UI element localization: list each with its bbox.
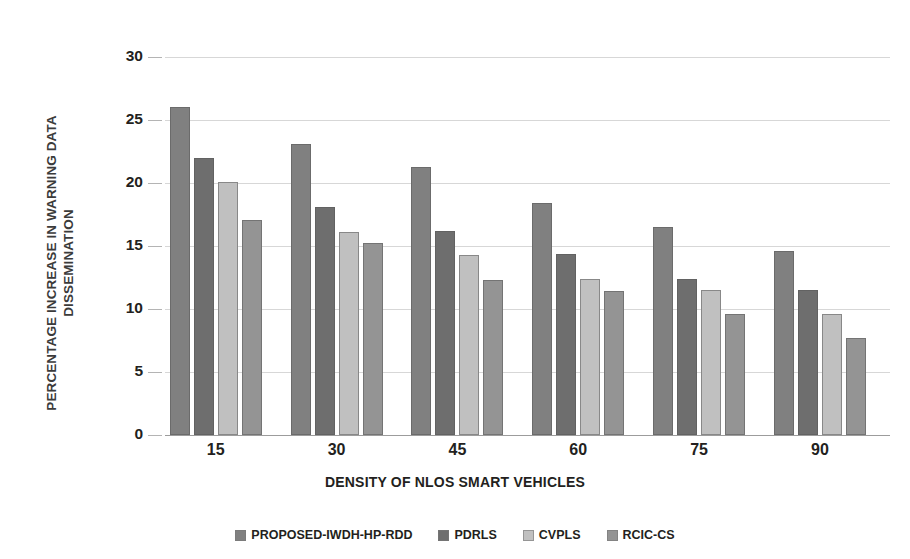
y-tick-label: 5 [134,362,143,380]
legend-swatch-icon [438,530,449,541]
bar-group [653,57,745,435]
legend-item[interactable]: RCIC-CS [607,528,675,542]
bar [556,254,576,435]
bar [483,280,503,435]
bar [459,255,479,435]
x-axis-tick-labels: 153045607590 [165,441,890,471]
bar [315,207,335,435]
legend-item[interactable]: CVPLS [523,528,581,542]
y-tick-mark [148,246,162,247]
bar [580,279,600,435]
bar [218,182,238,435]
x-tick-label: 15 [207,441,225,459]
bar [798,290,818,435]
legend-swatch-icon [607,530,618,541]
legend-label: PDRLS [454,528,496,542]
legend-item[interactable]: PROPOSED-IWDH-HP-RDD [235,528,412,542]
bar-chart: PERCENTAGE INCREASE IN WARNING DATA DISS… [0,0,910,559]
bar [677,279,697,435]
legend-item[interactable]: PDRLS [438,528,496,542]
legend-swatch-icon [523,530,534,541]
bar [170,107,190,435]
bar-group [411,57,503,435]
bar-group [291,57,383,435]
y-tick-mark [148,120,162,121]
bar [846,338,866,435]
bar [725,314,745,435]
bar [822,314,842,435]
bar [604,291,624,435]
y-tick-label: 30 [126,47,143,65]
bar-group [170,57,262,435]
y-tick-mark [148,372,162,373]
x-tick-label: 60 [569,441,587,459]
bar [435,231,455,435]
y-tick-label: 20 [126,173,143,191]
y-tick-label: 0 [134,425,143,443]
bar [411,167,431,435]
bar [242,220,262,435]
plot-area [165,57,890,435]
legend-label: CVPLS [539,528,581,542]
bar [363,243,383,435]
bar [291,144,311,435]
bar [774,251,794,435]
x-tick-label: 90 [811,441,829,459]
x-axis-title: DENSITY OF NLOS SMART VEHICLES [0,474,910,490]
legend-label: PROPOSED-IWDH-HP-RDD [251,528,412,542]
y-tick-label: 25 [126,110,143,128]
y-tick-mark [148,309,162,310]
x-tick-label: 30 [328,441,346,459]
x-axis-line [165,435,890,436]
bar [532,203,552,435]
bar-group [532,57,624,435]
y-tick-mark [148,183,162,184]
y-tick-mark [148,435,162,436]
bar [701,290,721,435]
y-tick-mark [148,57,162,58]
legend-swatch-icon [235,530,246,541]
y-tick-label: 10 [126,299,143,317]
chart-legend: PROPOSED-IWDH-HP-RDDPDRLSCVPLSRCIC-CS [0,520,910,550]
bar-group [774,57,866,435]
y-tick-label: 15 [126,236,143,254]
bar [653,227,673,435]
legend-label: RCIC-CS [623,528,675,542]
x-tick-label: 45 [449,441,467,459]
bar [339,232,359,435]
bar [194,158,214,435]
x-tick-label: 75 [690,441,708,459]
